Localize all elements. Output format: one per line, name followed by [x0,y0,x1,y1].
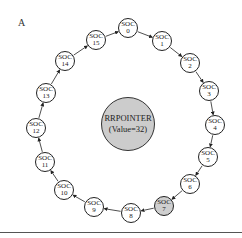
soc-node-index: 6 [188,184,192,191]
arrow-7-to-8 [141,208,153,211]
soc-node-11: SOC11 [35,152,55,172]
arrow-11-to-12 [39,138,43,152]
arrow-1-to-2 [170,47,181,56]
soc-node-1: SOC1 [152,31,172,51]
arrow-12-to-13 [39,103,43,118]
soc-node-13: SOC13 [36,83,56,103]
soc-node-15: SOC15 [86,30,106,50]
soc-node-index: 0 [126,28,130,35]
arrow-10-to-11 [51,171,58,182]
soc-node-index: 14 [62,61,69,68]
soc-node-9: SOC9 [84,197,104,217]
soc-node-index: 2 [188,63,192,70]
soc-node-4: SOC4 [205,115,225,135]
soc-node-14: SOC14 [55,51,75,71]
soc-node-index: 8 [129,213,133,220]
soc-node-index: 9 [92,207,96,214]
arrow-8-to-9 [104,209,120,212]
soc-node-5: SOC5 [198,147,218,167]
soc-node-12: SOC12 [26,118,46,138]
arrow-3-to-4 [211,101,213,114]
soc-node-10: SOC10 [54,180,74,200]
soc-node-7: SOC7 [154,196,174,216]
arrow-0-to-1 [138,32,152,38]
round-robin-diagram: A SOC0SOC1SOC2SOC3SOC4SOC5SOC6SOC7SOC8SO… [0,0,242,238]
soc-node-3: SOC3 [199,81,219,101]
rrpointer-circle: RRPOINTER (Value=32) [101,97,155,151]
arrow-2-to-3 [196,72,203,83]
soc-node-2: SOC2 [180,53,200,73]
rrpointer-value: (Value=32) [109,124,147,135]
soc-node-index: 11 [42,162,49,169]
soc-node-index: 1 [160,41,164,48]
arrow-9-to-10 [73,195,85,202]
soc-node-index: 4 [213,125,217,132]
soc-node-index: 3 [207,91,211,98]
arrow-15-to-0 [106,32,118,37]
arrow-14-to-15 [74,46,88,55]
soc-node-index: 12 [33,128,40,135]
arrow-6-to-7 [172,191,182,199]
arrow-5-to-6 [196,166,202,176]
soc-node-index: 10 [61,190,68,197]
soc-node-8: SOC8 [121,203,141,223]
soc-node-6: SOC6 [180,174,200,194]
arrow-4-to-5 [210,135,213,146]
soc-node-index: 7 [162,206,166,213]
soc-node-index: 5 [206,157,210,164]
bottom-rule [0,232,242,233]
soc-node-index: 15 [93,40,100,47]
soc-node-0: SOC0 [118,18,138,38]
rrpointer-title: RRPOINTER [104,113,151,124]
soc-node-index: 13 [43,93,50,100]
arrow-13-to-14 [51,70,59,84]
